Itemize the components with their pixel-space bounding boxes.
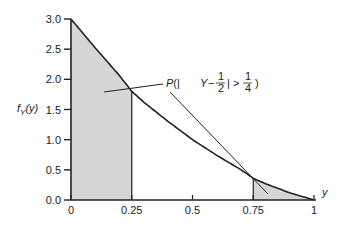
x-tick-label: 0.75 xyxy=(243,204,264,216)
x-tick-label: 0.25 xyxy=(121,204,142,216)
y-axis-label: fY(y) xyxy=(17,102,39,117)
x-tick-label: 1 xyxy=(311,204,317,216)
y-tick-label: 1.5 xyxy=(46,104,61,116)
svg-text:1: 1 xyxy=(245,70,251,82)
svg-text:P(|: P(| xyxy=(166,77,180,89)
svg-text:−: − xyxy=(208,77,214,89)
svg-text:): ) xyxy=(255,77,259,89)
x-tick-label: 0.5 xyxy=(185,204,200,216)
probability-annotation: P(| Y − 1 2 | > 1 4 ) xyxy=(166,70,259,94)
y-tick-label: 3.0 xyxy=(46,13,61,25)
y-ticks: 0.00.51.01.52.02.53.0 xyxy=(46,13,71,206)
x-axis-label: y xyxy=(321,186,329,198)
y-tick-label: 0.5 xyxy=(46,164,61,176)
y-tick-label: 1.0 xyxy=(46,134,61,146)
svg-text:| >: | > xyxy=(227,77,239,89)
svg-text:4: 4 xyxy=(245,82,251,94)
y-tick-label: 2.5 xyxy=(46,43,61,55)
density-chart: 0.00.51.01.52.02.53.0 00.250.50.751 fY(y… xyxy=(0,0,344,229)
svg-text:1: 1 xyxy=(218,70,224,82)
shaded-region-left xyxy=(71,19,132,200)
y-tick-label: 2.0 xyxy=(46,73,61,85)
svg-text:Y: Y xyxy=(200,77,208,89)
annotation-leader-right xyxy=(170,92,268,194)
x-tick-label: 0 xyxy=(68,204,74,216)
svg-text:2: 2 xyxy=(218,82,224,94)
y-tick-label: 0.0 xyxy=(46,194,61,206)
